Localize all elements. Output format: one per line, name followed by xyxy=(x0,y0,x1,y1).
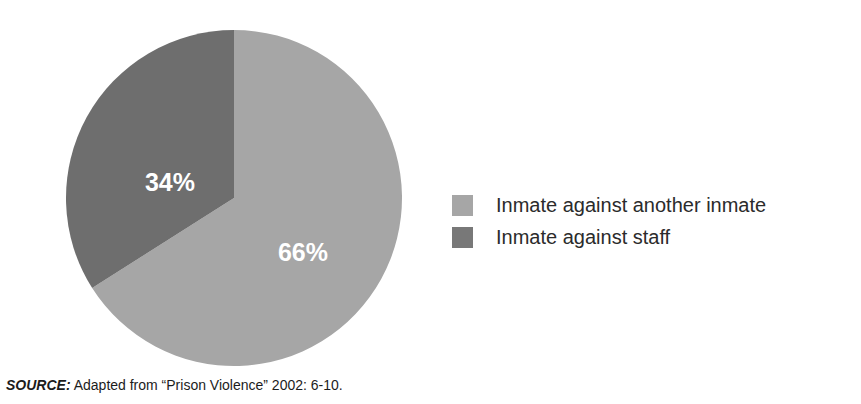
legend-label-inmate-against-staff: Inmate against staff xyxy=(496,227,670,247)
source-label: SOURCE: xyxy=(6,377,71,393)
legend-item-inmate-against-staff[interactable]: Inmate against staff xyxy=(452,221,842,253)
pie-svg: 66% 34% xyxy=(60,24,408,372)
legend-swatch-icon-inmate-against-staff xyxy=(452,227,473,248)
slice-label-34: 34% xyxy=(145,168,195,196)
legend: Inmate against another inmate Inmate aga… xyxy=(452,189,842,253)
slice-label-66: 66% xyxy=(278,238,328,266)
source-citation: Adapted from “Prison Violence” 2002: 6-1… xyxy=(71,377,343,393)
legend-label-inmate-against-another-inmate: Inmate against another inmate xyxy=(496,195,766,215)
legend-swatch-icon-inmate-against-another-inmate xyxy=(452,195,473,216)
legend-item-inmate-against-another-inmate[interactable]: Inmate against another inmate xyxy=(452,189,842,221)
pie-chart-graphic: 66% 34% xyxy=(60,24,408,372)
source-note: SOURCE: Adapted from “Prison Violence” 2… xyxy=(6,377,343,393)
pie-chart-figure: 66% 34% Inmate against another inmate In… xyxy=(0,0,861,404)
